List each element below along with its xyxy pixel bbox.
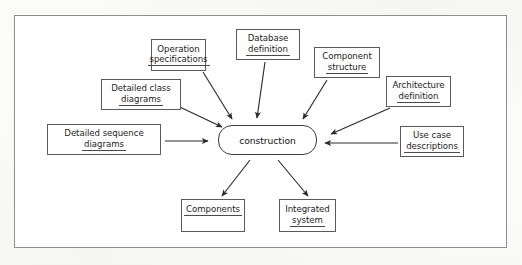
node-components[interactable]: Components	[181, 199, 245, 232]
node-label-line1: Detailed sequence	[64, 128, 143, 139]
node-database-definition[interactable]: Database definition	[236, 29, 300, 60]
node-label-line1: Architecture	[392, 80, 444, 91]
node-label-line2: diagrams	[82, 139, 126, 151]
diagram-page: Operation specifications Database defini…	[0, 0, 522, 265]
node-label-line2: definition	[246, 44, 290, 56]
node-label-line2: descriptions	[404, 141, 460, 153]
node-label-line2: system	[290, 215, 325, 227]
node-label-line1: Operation	[157, 44, 199, 55]
node-label-line1: Component	[322, 51, 371, 62]
central-node-label: construction	[239, 135, 296, 146]
node-integrated-system[interactable]: Integrated system	[279, 199, 336, 232]
node-label-line1: Integrated	[285, 204, 330, 215]
node-component-structure[interactable]: Component structure	[314, 47, 380, 78]
node-detailed-class-diagrams[interactable]: Detailed class diagrams	[101, 79, 181, 110]
node-label-line1: Components	[184, 204, 242, 216]
node-detailed-sequence-diagrams[interactable]: Detailed sequence diagrams	[47, 124, 161, 155]
node-label-line2: diagrams	[119, 94, 163, 106]
node-operation-specifications[interactable]: Operation specifications	[151, 39, 206, 71]
node-label-line1: Use case	[413, 130, 451, 141]
node-use-case-descriptions[interactable]: Use case descriptions	[400, 126, 464, 157]
node-label-line2: structure	[326, 62, 369, 74]
node-label-line2: definition	[397, 91, 441, 103]
node-architecture-definition[interactable]: Architecture definition	[386, 76, 451, 107]
node-label-line1: Database	[248, 33, 289, 44]
node-label-line2: specifications	[148, 54, 210, 66]
central-node-construction[interactable]: construction	[218, 125, 317, 155]
node-label-line1: Detailed class	[111, 83, 170, 94]
